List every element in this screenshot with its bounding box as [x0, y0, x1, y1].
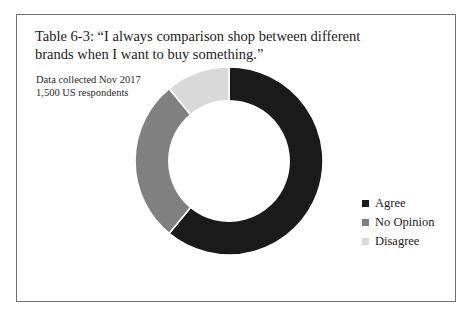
figure-frame: Table 6-3: “I always comparison shop bet… [16, 14, 456, 302]
legend-label-no-opinion: No Opinion [375, 215, 434, 230]
legend-item-no-opinion[interactable]: No Opinion [362, 214, 454, 231]
chart-legend: Agree No Opinion Disagree [362, 195, 454, 252]
legend-label-agree: Agree [375, 196, 406, 211]
donut-slice-no-opinion[interactable] [135, 89, 191, 234]
legend-swatch-icon-no-opinion [362, 219, 369, 226]
legend-item-agree[interactable]: Agree [362, 195, 454, 212]
chart-title-line-2: brands when I want to buy something.” [35, 45, 365, 63]
legend-swatch-icon-disagree [362, 238, 369, 245]
legend-label-disagree: Disagree [375, 234, 419, 249]
donut-chart [133, 65, 325, 257]
donut-slice-group [135, 67, 323, 255]
chart-title-line-1: Table 6-3: “I always comparison shop bet… [35, 27, 365, 45]
legend-item-disagree[interactable]: Disagree [362, 233, 454, 250]
legend-swatch-icon-agree [362, 200, 369, 207]
donut-chart-svg [133, 65, 325, 257]
chart-title: Table 6-3: “I always comparison shop bet… [35, 27, 365, 63]
